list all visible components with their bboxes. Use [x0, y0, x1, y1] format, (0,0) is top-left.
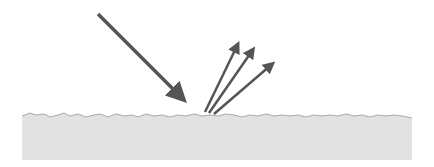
incident-ray-arrow: [98, 14, 180, 96]
diffuse-reflection-diagram: [0, 0, 434, 167]
reflected-ray-arrow-3: [214, 65, 271, 114]
diagram-canvas: [0, 0, 434, 167]
rough-surface: [22, 113, 412, 160]
